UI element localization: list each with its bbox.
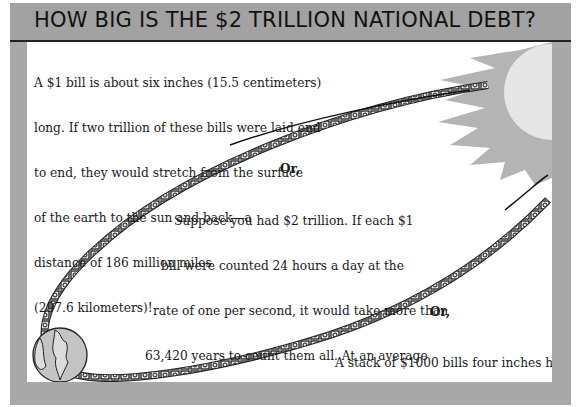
text-line: rate of one per second, it would take mo… — [153, 304, 448, 319]
text-line: A stack of $1000 bills four inches high — [335, 356, 552, 371]
text-line: Suppose you had $2 trillion. If each $1 — [161, 214, 448, 229]
text-line: long. If two trillion of these bills wer… — [34, 121, 321, 136]
or-label-1: Or, — [280, 162, 300, 176]
page-title: HOW BIG IS THE $2 TRILLION NATIONAL DEBT… — [34, 8, 536, 32]
infographic-panel: A $1 bill is about six inches (15.5 cent… — [27, 42, 552, 382]
text-line: to end, they would stretch from the surf… — [34, 166, 321, 181]
or-label-2: Or, — [430, 305, 450, 319]
text-line: A $1 bill is about six inches (15.5 cent… — [34, 76, 321, 91]
fact-block-3: A stack of $1000 bills four inches high … — [324, 326, 552, 382]
sun-icon — [438, 42, 552, 185]
text-line: bill were counted 24 hours a day at the — [161, 259, 448, 274]
